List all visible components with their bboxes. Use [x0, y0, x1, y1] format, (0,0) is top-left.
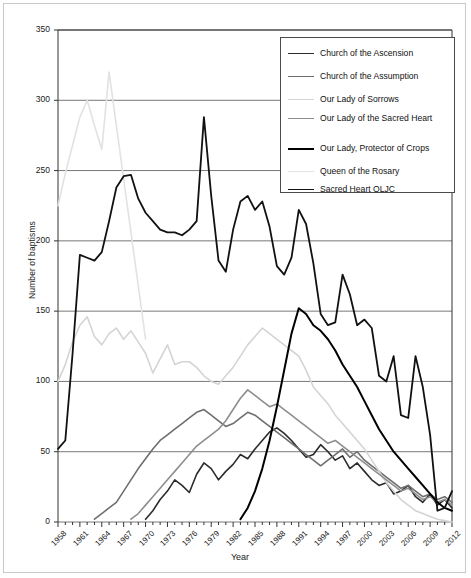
- y-tick-label: 0: [10, 516, 50, 526]
- legend-item: Our Lady, Protector of Crops: [288, 143, 454, 154]
- legend-swatch: [288, 118, 314, 119]
- y-tick-label: 250: [10, 165, 50, 175]
- legend-item: Queen of the Rosary: [288, 166, 454, 177]
- chart-figure: Number of baptisms Year 0501001502002503…: [0, 0, 471, 578]
- legend-item: Our Lady of the Sacred Heart: [288, 113, 454, 124]
- series-line-5: [58, 72, 146, 339]
- legend-label: Church of the Ascension: [320, 48, 413, 59]
- legend-swatch: [288, 148, 314, 150]
- y-tick-label: 150: [10, 305, 50, 315]
- legend-label: Our Lady of Sorrows: [320, 94, 399, 105]
- legend-item: Church of the Ascension: [288, 48, 454, 59]
- chart-legend: Church of the AscensionChurch of the Ass…: [280, 37, 455, 193]
- series-line-3: [131, 390, 452, 519]
- legend-swatch: [288, 189, 314, 190]
- legend-swatch: [288, 76, 314, 77]
- legend-label: Church of the Assumption: [320, 71, 418, 82]
- legend-swatch: [288, 53, 314, 54]
- legend-item: Church of the Assumption: [288, 71, 454, 82]
- y-tick-label: 350: [10, 24, 50, 34]
- legend-label: Sacred Heart OLJC: [320, 184, 395, 195]
- legend-label: Our Lady of the Sacred Heart: [320, 113, 432, 124]
- series-line-4: [240, 308, 452, 519]
- y-tick-label: 300: [10, 94, 50, 104]
- y-tick-label: 200: [10, 235, 50, 245]
- legend-label: Queen of the Rosary: [320, 166, 399, 177]
- series-line-0: [146, 428, 452, 519]
- y-tick-label: 50: [10, 446, 50, 456]
- legend-item: Our Lady of Sorrows: [288, 94, 454, 105]
- y-tick-label: 100: [10, 375, 50, 385]
- legend-swatch: [288, 171, 314, 172]
- legend-item: Sacred Heart OLJC: [288, 184, 454, 195]
- legend-swatch: [288, 99, 314, 100]
- legend-label: Our Lady, Protector of Crops: [320, 143, 429, 154]
